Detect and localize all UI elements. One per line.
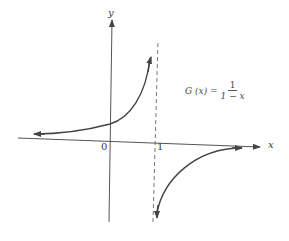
- y-axis-label: y: [108, 8, 114, 18]
- origin-label: 0: [101, 142, 107, 152]
- y-axis: [109, 20, 112, 222]
- formula-lhs: G (x) =: [185, 86, 218, 96]
- function-graph: [0, 0, 289, 241]
- right-branch-curve: [157, 148, 242, 213]
- x-axis-label: x: [268, 140, 274, 150]
- function-formula: G (x) = 1 1 − x: [185, 80, 245, 101]
- formula-fraction: 1 1 − x: [221, 80, 245, 101]
- left-branch-curve: [34, 58, 150, 134]
- formula-numerator: 1: [228, 80, 238, 91]
- x-axis: [18, 138, 260, 147]
- tick-label-one: 1: [157, 142, 163, 152]
- vertical-asymptote: [153, 40, 158, 222]
- formula-denominator: 1 − x: [221, 91, 245, 101]
- right-branch-arrow-down: [157, 205, 158, 218]
